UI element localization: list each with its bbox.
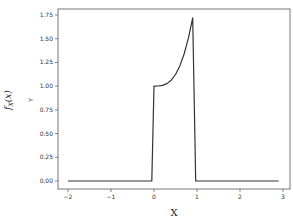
y-axis-function-label: fX(x) bbox=[3, 90, 14, 111]
x-tick-label: 1 bbox=[195, 193, 199, 200]
y-tick-label: 0.50 bbox=[40, 130, 54, 137]
y-axis-label: Y bbox=[27, 98, 34, 103]
x-axis-label: X bbox=[170, 207, 178, 218]
x-tick-label: 0 bbox=[152, 193, 156, 200]
y-tick-label: 0.75 bbox=[40, 106, 54, 113]
plot-frame bbox=[58, 9, 290, 189]
x-tick-label: −2 bbox=[64, 193, 73, 200]
y-tick-label: 0.00 bbox=[40, 177, 54, 184]
x-tick-label: 2 bbox=[238, 193, 242, 200]
chart: 0.000.250.500.751.001.251.501.75 −2−1012… bbox=[0, 0, 293, 223]
y-tick-label: 1.50 bbox=[40, 35, 54, 42]
y-tick-label: 1.25 bbox=[40, 58, 54, 65]
x-tick-label: 3 bbox=[281, 193, 285, 200]
x-tick-label: −1 bbox=[107, 193, 116, 200]
x-axis-ticks: −2−10123 bbox=[64, 189, 286, 200]
y-axis-ticks: 0.000.250.500.751.001.251.501.75 bbox=[40, 11, 58, 184]
y-tick-label: 1.75 bbox=[40, 11, 54, 18]
y-tick-label: 0.25 bbox=[40, 153, 54, 160]
y-tick-label: 1.00 bbox=[40, 82, 54, 89]
